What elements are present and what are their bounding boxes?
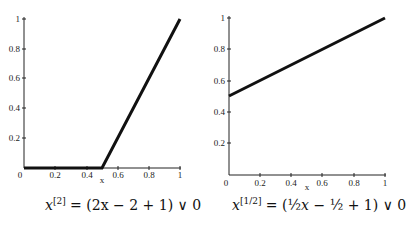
caption-base: x [45, 197, 53, 213]
caption-base: x [232, 197, 240, 213]
y-tick-0.4: 0.4 [9, 103, 21, 113]
x-tick-0.8: 0.8 [143, 170, 155, 180]
x-axis-label: x [305, 182, 310, 190]
caption-superscript: [2] [53, 196, 66, 206]
x-tick-1: 1 [178, 170, 183, 180]
y-tick-0.8: 0.8 [214, 44, 226, 54]
x-tick-0: 0 [224, 178, 229, 188]
y-tick-0.4: 0.4 [214, 107, 226, 117]
left-caption: x[2] = (2x − 2 + 1) ∨ 0 [45, 196, 201, 213]
x-tick-0.4: 0.4 [81, 170, 93, 180]
y-tick-1: 1 [16, 14, 21, 24]
caption-formula-pre: = ( [261, 197, 287, 213]
x-tick-0.6: 0.6 [316, 178, 328, 188]
y-tick-0.2: 0.2 [214, 138, 225, 148]
left-plot: 1 0.8 0.6 0.4 0.2 0 0.2 0.4 0.6 0.8 1 x [0, 0, 200, 194]
right-plot: 1 0.8 0.6 0.4 0.2 0 0.2 0.4 0.6 0.8 1 x [200, 0, 401, 194]
y-tick-0.6: 0.6 [9, 73, 21, 83]
series-line [24, 19, 180, 168]
x-tick-1: 1 [383, 178, 388, 188]
y-tick-1: 1 [221, 13, 226, 23]
x-tick-0.4: 0.4 [285, 178, 297, 188]
x-tick-0.6: 0.6 [112, 170, 124, 180]
x-tick-0: 0 [18, 170, 23, 180]
y-tick-0.6: 0.6 [214, 76, 226, 86]
caption-formula: = (2x − 2 + 1) ∨ 0 [66, 197, 202, 213]
x-tick-0.2: 0.2 [49, 170, 60, 180]
caption-fraction-1: ½ [288, 197, 302, 213]
caption-formula-post: + 1) ∨ 0 [343, 197, 406, 213]
x-tick-0.2: 0.2 [254, 178, 265, 188]
y-tick-0.2: 0.2 [9, 133, 20, 143]
series-line [229, 18, 385, 96]
caption-formula-mid: x − [301, 197, 330, 213]
x-axis-label: x [100, 175, 105, 185]
right-plot-svg: 1 0.8 0.6 0.4 0.2 0 0.2 0.4 0.6 0.8 1 x [200, 0, 401, 190]
x-tick-0.8: 0.8 [348, 178, 360, 188]
y-tick-0.8: 0.8 [9, 44, 21, 54]
right-caption: x[1/2] = (½x − ½ + 1) ∨ 0 [232, 196, 406, 213]
caption-fraction-2: ½ [330, 197, 344, 213]
caption-superscript: [1/2] [240, 196, 262, 206]
left-plot-svg: 1 0.8 0.6 0.4 0.2 0 0.2 0.4 0.6 0.8 1 x [0, 0, 200, 190]
